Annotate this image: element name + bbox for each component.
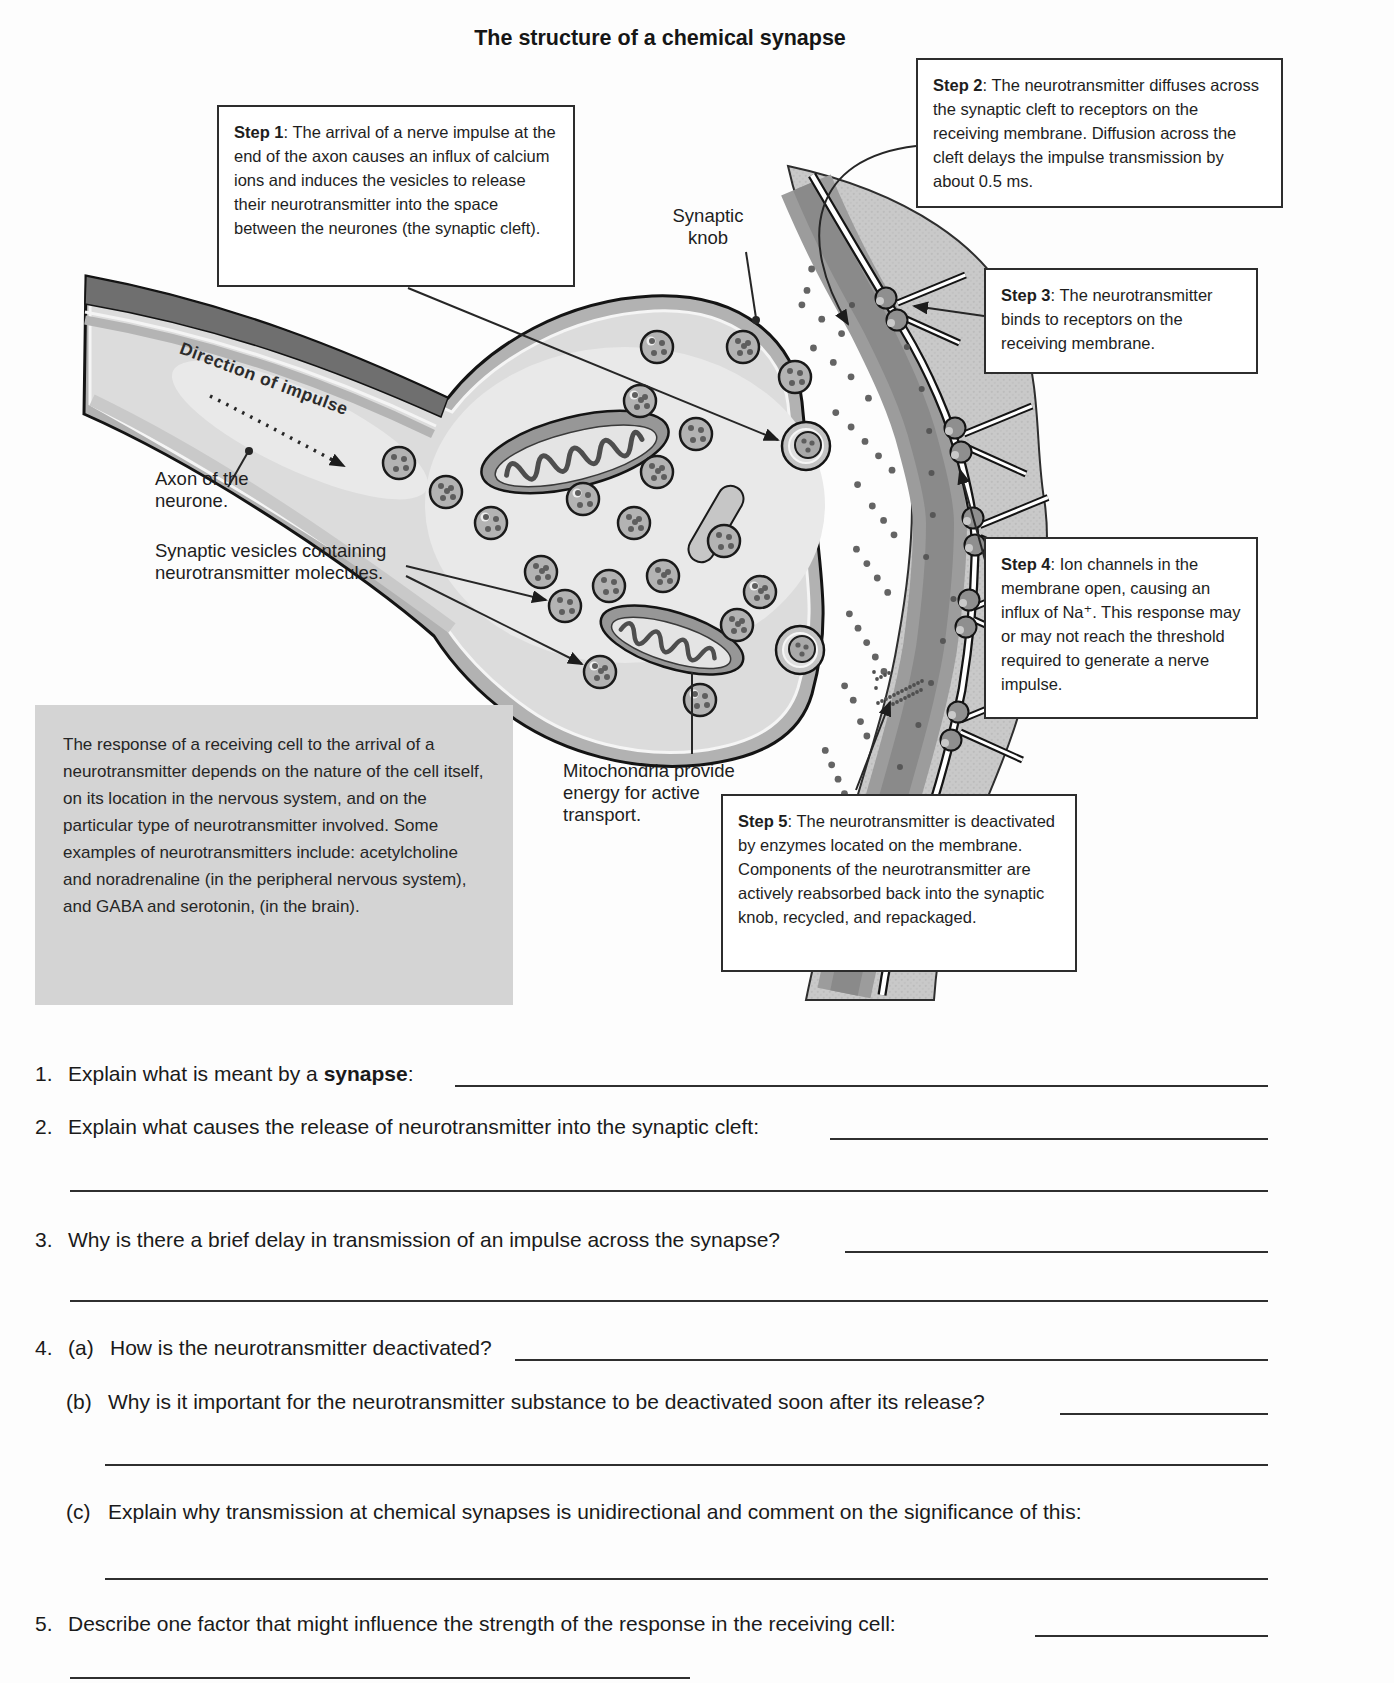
vesicle: [641, 331, 673, 363]
dense-dot: [875, 677, 879, 681]
synaptic-vesicles: [383, 331, 811, 716]
cleft-dot: [863, 560, 870, 567]
question-2-text: Explain what causes the release of neuro…: [68, 1115, 759, 1138]
receptor: [948, 702, 969, 723]
vesicle: [727, 331, 759, 363]
cleft-dot: [930, 512, 936, 518]
dense-dot: [887, 671, 891, 675]
dense-dot: [883, 673, 887, 677]
dense-dot: [879, 675, 883, 679]
cleft-dot: [875, 452, 882, 459]
question-5: 5.Describe one factor that might influen…: [35, 1612, 896, 1636]
info-box-text: The response of a receiving cell to the …: [63, 735, 484, 916]
cleft-dot: [863, 733, 870, 740]
receptor: [876, 288, 897, 309]
answer-line-q2: [830, 1138, 1268, 1140]
step1-callout: Step 1: The arrival of a nerve impulse a…: [217, 105, 575, 287]
question-5-number: 5.: [35, 1612, 68, 1636]
step5-callout: Step 5: The neurotransmitter is deactiva…: [721, 794, 1077, 972]
ion-channel-fork: [898, 315, 960, 343]
receptor: [941, 730, 962, 751]
cleft-dot: [891, 531, 898, 538]
cleft-dot: [929, 470, 935, 476]
receptor: [887, 310, 908, 331]
question-4-number: 4.: [35, 1336, 68, 1360]
vesicle: [593, 570, 625, 602]
answer-line-q5-cont: [70, 1677, 690, 1679]
question-2: 2.Explain what causes the release of neu…: [35, 1115, 759, 1139]
cleft-dot: [818, 316, 825, 323]
ion-channel-fork: [898, 275, 966, 303]
ion-channel-fork: [964, 446, 1026, 474]
step3-label: Step 3: [1001, 286, 1051, 304]
question-1: 1.Explain what is meant by a synapse:: [35, 1062, 414, 1086]
step1-label: Step 1: [234, 123, 284, 141]
question-1-text: Explain what is meant by a: [68, 1062, 324, 1085]
step5-arrow: [856, 702, 890, 790]
receptor: [959, 590, 980, 611]
fusion-pocket: [782, 422, 830, 470]
cleft-dot: [857, 718, 864, 725]
vesicle: [680, 418, 712, 450]
dense-dot: [876, 701, 880, 705]
vesicle: [584, 656, 616, 688]
fusing-vesicle: [789, 636, 815, 662]
page-title: The structure of a chemical synapse: [380, 26, 940, 51]
answer-line-q4a: [515, 1359, 1268, 1361]
step4-label: Step 4: [1001, 555, 1051, 573]
vesicle: [525, 556, 557, 588]
vesicle: [549, 590, 581, 622]
dense-dot: [903, 696, 907, 700]
vesicle: [647, 560, 679, 592]
cleft-dot: [874, 575, 881, 582]
worksheet-page: The structure of a chemical synapse Step…: [0, 0, 1394, 1683]
answer-line-q3: [845, 1251, 1268, 1253]
cleft-dot: [872, 654, 879, 661]
deactivated-neurotransmitter-cluster: [872, 670, 924, 706]
vesicle-fusion-pockets: [776, 422, 830, 674]
cleft-dot: [799, 301, 806, 308]
question-3-number: 3.: [35, 1228, 68, 1252]
dense-dot: [892, 693, 896, 697]
cleft-dot: [863, 639, 870, 646]
axon-label: Axon of the neurone.: [155, 468, 287, 512]
receptor: [956, 617, 977, 638]
cleft-dot: [810, 345, 817, 352]
dense-dot: [919, 688, 923, 692]
question-4b: (b)Why is it important for the neurotran…: [66, 1390, 985, 1414]
cleft-dot: [897, 764, 903, 770]
vesicle: [721, 609, 753, 641]
cleft-dot: [853, 546, 860, 553]
question-4a: 4.(a)How is the neurotransmitter deactiv…: [35, 1336, 492, 1360]
cleft-dot: [923, 554, 929, 560]
direction-of-impulse-label: Direction of impulse: [177, 338, 400, 438]
vesicle: [779, 361, 811, 393]
dense-dot: [904, 687, 908, 691]
axon-dark-band: [85, 276, 448, 417]
step2-text: : The neurotransmitter diffuses across t…: [933, 76, 1259, 190]
mitochondrion: [593, 592, 751, 689]
organelle: [684, 481, 749, 567]
ion-channel-fork: [964, 406, 1032, 434]
ion-channel-fork: [961, 732, 1023, 760]
step1-arrow: [408, 288, 778, 440]
vesicle: [475, 507, 507, 539]
vesicle: [618, 507, 650, 539]
receptor: [951, 442, 972, 463]
cleft-dot: [880, 517, 887, 524]
cleft-dot: [841, 682, 848, 689]
question-3-text: Why is there a brief delay in transmissi…: [68, 1228, 780, 1251]
leader-dot: [245, 447, 253, 455]
question-1-number: 1.: [35, 1062, 68, 1086]
synaptic-knob-label: Synaptic knob: [652, 205, 764, 249]
cleft-dot: [835, 776, 842, 783]
fusing-vesicle: [795, 432, 821, 458]
cleft-dot: [848, 424, 855, 431]
question-3: 3.Why is there a brief delay in transmis…: [35, 1228, 780, 1252]
vesicle: [744, 576, 776, 608]
dense-dot: [916, 681, 920, 685]
receptor: [945, 418, 966, 439]
cleft-dot: [889, 467, 896, 474]
cleft-dot: [850, 697, 857, 704]
knob-leader: [746, 252, 756, 318]
